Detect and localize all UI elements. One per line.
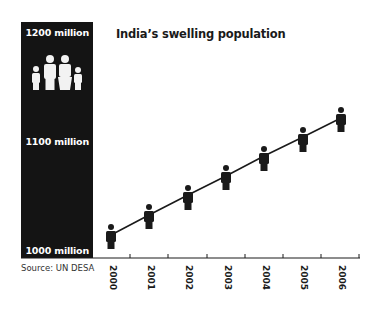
- person-icon: [106, 224, 116, 249]
- x-axis-ticks: [130, 254, 359, 258]
- x-tick-label-2004: 2004: [261, 265, 271, 290]
- x-tick-label-2006: 2006: [337, 265, 347, 290]
- x-tick-label-2001: 2001: [146, 265, 156, 290]
- person-icon: [144, 204, 154, 229]
- person-icon: [259, 146, 269, 171]
- x-tick-label-2005: 2005: [299, 265, 309, 290]
- person-icon: [221, 165, 231, 190]
- person-icon: [298, 127, 308, 152]
- x-tick-label-2000: 2000: [108, 265, 118, 290]
- x-tick-label-2003: 2003: [223, 265, 233, 290]
- x-tick-label-2002: 2002: [184, 265, 194, 290]
- person-icon: [183, 185, 193, 210]
- source-note: Source: UN DESA: [21, 263, 94, 273]
- person-icon: [336, 107, 346, 132]
